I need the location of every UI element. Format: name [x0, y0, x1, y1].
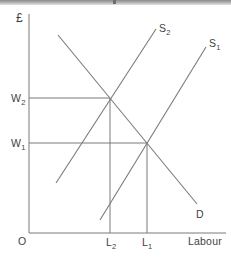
w2-axis-marker: W2: [11, 92, 25, 106]
w2-subscript: 2: [21, 98, 25, 107]
l2-axis-marker: L2: [106, 236, 116, 250]
s1-subscript: 1: [216, 43, 220, 52]
l1-axis-marker: L1: [142, 236, 152, 250]
w1-base: W: [11, 137, 21, 149]
x-axis-label: Labour: [188, 235, 222, 247]
s1-curve-label: S1: [209, 37, 220, 51]
supply-curve-s1: [100, 47, 206, 220]
l1-subscript: 1: [148, 242, 152, 251]
supply-curve-s2: [56, 29, 156, 183]
d-curve-label: D: [196, 208, 204, 220]
l2-subscript: 2: [112, 242, 116, 251]
s2-subscript: 2: [166, 28, 170, 37]
w1-axis-marker: W1: [11, 137, 25, 151]
demand-curve-d: [58, 35, 197, 204]
w1-subscript: 1: [21, 143, 25, 152]
figure-canvas: £ S2 S1 W2 W1 D O L2 L1 Labour: [0, 0, 231, 257]
y-axis-label: £: [16, 12, 23, 24]
s2-curve-label: S2: [159, 22, 170, 36]
d-base: D: [196, 208, 204, 220]
origin-label: O: [18, 235, 26, 247]
w2-base: W: [11, 92, 21, 104]
